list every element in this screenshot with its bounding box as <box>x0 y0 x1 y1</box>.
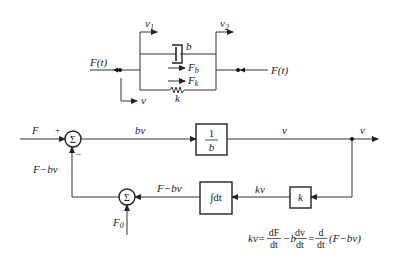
left-arrowhead <box>113 68 118 73</box>
block-diagram: F + Σ − bv 1 b v v k kv ∫dt F−bv Σ F0 F−… <box>20 124 378 235</box>
damper-label: b <box>186 40 192 52</box>
eq-t3-den: dt <box>317 239 325 250</box>
kv-label: kv <box>255 183 265 195</box>
force-left-label: F(t) <box>89 56 107 69</box>
eq-equals: = <box>308 232 314 244</box>
feedback-left-label: F−bv <box>32 163 58 175</box>
v-label: v <box>141 94 146 106</box>
feedback-line-right <box>311 139 352 197</box>
eq-lhs: kv= <box>248 232 265 244</box>
sum2-symbol: Σ <box>124 192 130 203</box>
bv-label: bv <box>135 124 146 136</box>
right-node-dot <box>236 68 240 72</box>
v-out-label: v <box>360 124 365 136</box>
v-arrow <box>121 78 137 101</box>
v-mid-label: v <box>282 124 287 136</box>
diagram-canvas: F(t) v1 v2 b Fb Fk k <box>0 0 396 263</box>
right-arrowhead <box>240 68 245 73</box>
eq-t3-num: d <box>319 227 324 238</box>
eq-t1-den: dt <box>270 239 278 250</box>
spring-label: k <box>175 92 181 104</box>
input-label: F <box>31 124 39 136</box>
eq-t2-den: dt <box>296 239 304 250</box>
integrator-label: ∫dt <box>209 191 222 204</box>
eq-paren: (F−bv) <box>329 232 361 245</box>
eq-t2-num: dv <box>295 227 305 238</box>
gain-denominator: b <box>209 141 215 153</box>
eq-t1-num: dF <box>269 227 280 238</box>
v2-label: v2 <box>220 17 229 32</box>
mechanical-schematic: F(t) v1 v2 b Fb Fk k <box>89 17 288 106</box>
equation: kv= dF dt −b dv dt = d dt (F−bv) <box>248 227 361 250</box>
fk-label: Fk <box>187 74 199 88</box>
force-right-label: F(t) <box>270 64 288 77</box>
minus-sign: − <box>76 149 81 159</box>
feedback-mid-label: F−bv <box>156 182 182 194</box>
damper-icon <box>140 45 216 63</box>
v1-label: v1 <box>145 17 154 32</box>
f0-label: F0 <box>112 216 124 230</box>
fb-label: Fb <box>187 61 199 75</box>
plus-sign: + <box>55 125 60 135</box>
left-node-dot <box>118 68 122 72</box>
sum1-symbol: Σ <box>70 134 76 145</box>
gain-numerator: 1 <box>209 127 215 139</box>
